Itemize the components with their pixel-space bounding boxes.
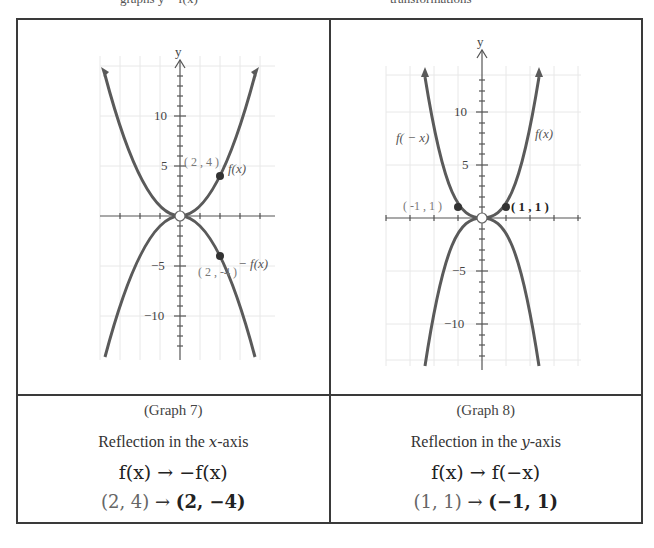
point-label-1-1: ( 1 , 1 ) bbox=[511, 199, 549, 214]
tick-5: 5 bbox=[462, 157, 469, 172]
tick-neg5: −5 bbox=[452, 263, 466, 278]
point-label-2-neg4: ( 2 , -4 ) bbox=[198, 265, 237, 279]
curve-arrow-right-icon bbox=[535, 67, 543, 77]
reflection-var: x bbox=[209, 433, 217, 451]
clipped-header-right: transformations bbox=[390, 0, 472, 7]
tick-10: 10 bbox=[154, 108, 167, 123]
clipped-header-text: graphs y = f(x) transformations bbox=[0, 0, 654, 5]
graph7-rule: f(x) → −f(x) bbox=[18, 461, 329, 483]
graph7-points: (2, 4) → (2, −4) bbox=[18, 491, 329, 512]
tick-10: 10 bbox=[454, 104, 467, 119]
curve-f-arrow-right-icon bbox=[251, 67, 259, 77]
points-to: (−1, 1) bbox=[488, 491, 558, 512]
graph8-caption: (Graph 8) bbox=[331, 402, 642, 419]
point-label-2-4: ( 2 , 4 ) bbox=[184, 155, 219, 169]
points-to: (2, −4) bbox=[176, 491, 246, 512]
reflection-prefix: Reflection in the bbox=[98, 433, 209, 450]
y-axis-label: y bbox=[477, 34, 484, 49]
clipped-header-left: graphs y = f(x) bbox=[120, 0, 198, 7]
reflection-var: y bbox=[521, 433, 529, 451]
reflection-suffix: -axis bbox=[217, 433, 248, 450]
tick-neg5: −5 bbox=[151, 258, 165, 273]
graph8-caption-cell: (Graph 8) Reflection in the y-axis f(x) … bbox=[330, 395, 643, 523]
y-axis-label: y bbox=[175, 44, 182, 59]
graph8-cell: y 10 5 −5 −10 ( -1 , 1 ) ( 1 , 1 ) f( − … bbox=[330, 19, 643, 395]
graph7-caption: (Graph 7) bbox=[18, 402, 329, 419]
graphs-table: y 10 5 −5 −10 ( 2 , 4 ) ( 2 , -4 ) f(x) … bbox=[16, 18, 643, 524]
reflection-suffix: -axis bbox=[530, 433, 561, 450]
graph8-rule: f(x) → f(−x) bbox=[331, 461, 642, 483]
fn-label-f: f(x) bbox=[535, 126, 553, 141]
graph8-points: (1, 1) → (−1, 1) bbox=[331, 491, 642, 512]
reflection-prefix: Reflection in the bbox=[411, 433, 522, 450]
point-label-neg1-1: ( -1 , 1 ) bbox=[403, 199, 442, 213]
graph7-axes bbox=[100, 60, 275, 360]
graph7-caption-cell: (Graph 7) Reflection in the x-axis f(x) … bbox=[17, 395, 330, 523]
tick-5: 5 bbox=[161, 158, 168, 173]
point-neg1-1 bbox=[454, 203, 462, 211]
point-2-4 bbox=[216, 172, 224, 180]
graph7-plot: y 10 5 −5 −10 ( 2 , 4 ) ( 2 , -4 ) f(x) … bbox=[18, 20, 340, 394]
graph8-reflection-text: Reflection in the y-axis bbox=[331, 433, 642, 451]
points-from: (1, 1) bbox=[413, 491, 461, 512]
graph7-cell: y 10 5 −5 −10 ( 2 , 4 ) ( 2 , -4 ) f(x) … bbox=[17, 19, 330, 395]
point-2-neg4 bbox=[216, 252, 224, 260]
tick-neg10: −10 bbox=[144, 308, 164, 323]
curve-f-arrow-left-icon bbox=[101, 67, 109, 77]
origin-marker bbox=[477, 213, 487, 223]
fn-label-f: f(x) bbox=[228, 161, 246, 176]
points-arrow: → bbox=[149, 491, 176, 512]
curve-arrow-left-icon bbox=[421, 67, 429, 77]
tick-neg10: −10 bbox=[444, 316, 464, 331]
graph7-reflection-text: Reflection in the x-axis bbox=[18, 433, 329, 451]
point-1-1 bbox=[502, 203, 510, 211]
fn-label-neg-f: − f(x) bbox=[238, 256, 268, 271]
points-arrow: → bbox=[462, 491, 489, 512]
fn-label-f-neg-x: f( − x) bbox=[396, 130, 429, 145]
graph8-plot: y 10 5 −5 −10 ( -1 , 1 ) ( 1 , 1 ) f( − … bbox=[331, 20, 634, 394]
origin-marker bbox=[175, 211, 185, 221]
points-from: (2, 4) bbox=[101, 491, 149, 512]
